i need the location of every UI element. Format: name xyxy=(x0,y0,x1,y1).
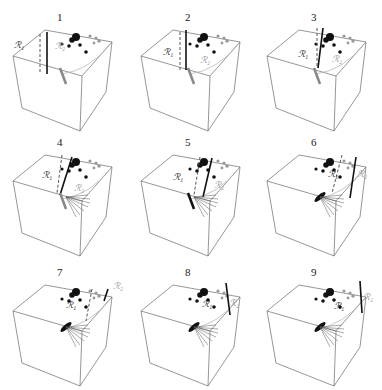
region-label-r1: ℛ₁ xyxy=(334,302,344,311)
cube-plot xyxy=(128,255,258,390)
region-label-r1: ℛ₁ xyxy=(328,170,338,179)
boundary-dashed xyxy=(57,155,62,193)
data-point xyxy=(97,39,101,43)
cube-plot xyxy=(128,125,258,260)
data-point xyxy=(188,167,191,170)
region-label-r2: ℛ₂ xyxy=(200,56,210,65)
panel-7: 7ℛ₁ℛ₂ xyxy=(0,255,130,384)
data-point xyxy=(93,297,96,300)
data-point xyxy=(212,305,216,309)
region-label-r1: ℛ₁ xyxy=(202,300,212,309)
data-point xyxy=(225,39,229,43)
data-point xyxy=(84,175,88,179)
data-point xyxy=(200,33,208,41)
data-point xyxy=(338,175,342,179)
region-label-r1: ℛ₁ xyxy=(173,173,183,182)
data-point xyxy=(342,289,345,292)
data-point xyxy=(348,36,351,39)
boundary-solid xyxy=(60,157,72,195)
data-point xyxy=(67,44,71,48)
region-label-r1: ℛ₁ xyxy=(42,171,52,180)
data-point xyxy=(326,288,334,296)
data-point xyxy=(78,168,82,172)
data-point xyxy=(351,39,355,43)
boundary-dashed xyxy=(86,289,92,321)
panel-1: 1ℛ₁ℛ₂ xyxy=(0,0,130,129)
cube-plot xyxy=(0,255,130,390)
panel-number-label: 5 xyxy=(185,137,191,148)
data-point xyxy=(93,167,96,170)
data-point xyxy=(72,158,80,166)
cube-plot xyxy=(0,0,130,135)
data-point xyxy=(347,167,350,170)
data-point xyxy=(348,161,351,164)
data-point xyxy=(225,164,229,168)
data-point xyxy=(94,161,97,164)
data-point xyxy=(88,159,91,162)
boundary-solid xyxy=(104,289,108,301)
boundary-solid xyxy=(360,281,362,313)
region-label-r2: ℛ₂ xyxy=(214,181,224,190)
panel-2: 2ℛ₁ℛ₂ xyxy=(128,0,258,129)
data-point xyxy=(351,294,355,298)
region-label-r2: ℛ₂ xyxy=(363,293,373,302)
data-point xyxy=(200,288,208,296)
data-point xyxy=(321,299,325,303)
data-point xyxy=(72,288,80,296)
panel-number-label: 6 xyxy=(311,137,317,148)
cube-plot xyxy=(254,255,382,390)
panel-number-label: 9 xyxy=(311,267,317,278)
data-point xyxy=(347,297,350,300)
data-point xyxy=(195,44,199,48)
panel-5: 5ℛ₁ℛ₂ xyxy=(128,125,258,254)
region-label-r2: ℛ₂ xyxy=(74,184,84,193)
data-point xyxy=(216,289,219,292)
data-point xyxy=(93,42,96,45)
cube-plot xyxy=(254,125,382,260)
data-point xyxy=(78,298,82,302)
cube-plot xyxy=(254,0,382,135)
data-point xyxy=(212,175,216,179)
data-point xyxy=(88,34,91,37)
panel-number-label: 1 xyxy=(57,12,63,23)
data-point xyxy=(94,291,97,294)
panel-4: 4ℛ₁ℛ₂ xyxy=(0,125,130,254)
panel-number-label: 2 xyxy=(185,12,191,23)
data-point xyxy=(348,291,351,294)
region-label-r2: ℛ₂ xyxy=(332,55,342,64)
data-point xyxy=(326,33,334,41)
data-point xyxy=(222,161,225,164)
data-point xyxy=(94,36,97,39)
data-point xyxy=(206,43,210,47)
data-point xyxy=(60,297,63,300)
panel-8: 8ℛ₁ℛ₂ xyxy=(128,255,258,384)
panel-6: 6ℛ₁ℛ₂ xyxy=(254,125,382,254)
data-point xyxy=(347,42,350,45)
data-point xyxy=(72,33,80,41)
data-point xyxy=(200,158,208,166)
region-label-r2: ℛ₂ xyxy=(113,282,123,291)
data-point xyxy=(326,158,334,166)
data-point xyxy=(342,34,345,37)
panel-number-label: 3 xyxy=(311,12,317,23)
data-point xyxy=(84,50,88,54)
data-point xyxy=(332,43,336,47)
region-label-r2: ℛ₂ xyxy=(55,42,65,51)
cube-plot xyxy=(128,0,258,135)
data-point xyxy=(221,42,224,45)
data-point xyxy=(60,167,63,170)
region-label-r1: ℛ₁ xyxy=(14,41,24,50)
data-point xyxy=(222,36,225,39)
data-point xyxy=(212,50,216,54)
region-label-r1: ℛ₁ xyxy=(298,50,308,59)
cube-plot xyxy=(0,125,130,260)
region-label-r2: ℛ₂ xyxy=(229,299,239,308)
data-point xyxy=(188,297,191,300)
data-point xyxy=(97,164,101,168)
data-point xyxy=(221,297,224,300)
data-point xyxy=(321,44,325,48)
region-label-r1: ℛ₁ xyxy=(66,301,76,310)
data-point xyxy=(188,42,191,45)
data-point xyxy=(97,294,101,298)
panel-3: 3ℛ₁ℛ₂ xyxy=(254,0,382,129)
